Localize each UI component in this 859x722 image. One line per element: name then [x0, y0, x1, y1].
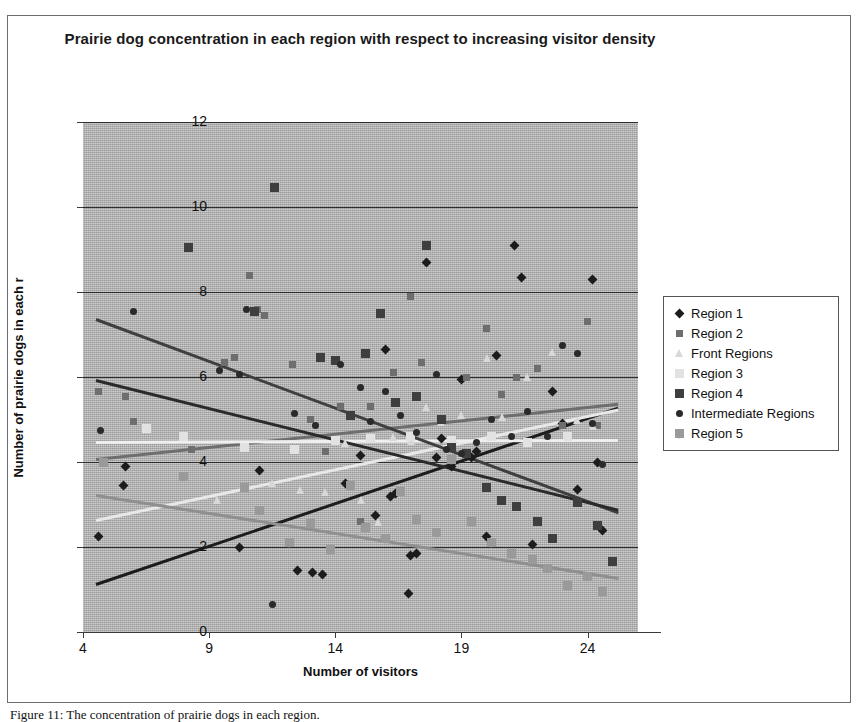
square-marker-icon — [671, 325, 687, 341]
figure-caption: Figure 11: The concentration of prairie … — [10, 707, 710, 722]
x-tick-mark-14 — [335, 632, 336, 638]
y-tick-label-6: 6 — [167, 368, 207, 384]
triangle-marker-icon — [671, 345, 687, 361]
y-axis-title: Number of prairie dogs in each r — [11, 98, 26, 658]
x-tick-mark-4 — [83, 632, 84, 638]
legend-item-region-3[interactable]: Region 3 — [671, 363, 831, 383]
legend-label: Region 3 — [691, 366, 743, 381]
y-tick-label-8: 8 — [167, 283, 207, 299]
legend-label: Region 2 — [691, 326, 743, 341]
legend-label: Region 5 — [691, 426, 743, 441]
legend-label: Region 1 — [691, 306, 743, 321]
legend-item-region-4[interactable]: Region 4 — [671, 383, 831, 403]
diamond-marker-icon — [671, 305, 687, 321]
figure-page: Prairie dog concentration in each region… — [0, 0, 859, 722]
y-tick-mark-10 — [77, 207, 83, 208]
legend: Region 1Region 2Front RegionsRegion 3Reg… — [663, 296, 839, 451]
x-marker-icon — [671, 365, 687, 381]
y-tick-mark-4 — [77, 462, 83, 463]
y-tick-mark-2 — [77, 547, 83, 548]
y-tick-label-10: 10 — [167, 198, 207, 214]
legend-label: Front Regions — [691, 346, 773, 361]
y-tick-mark-8 — [77, 292, 83, 293]
trendline-region-5 — [95, 494, 618, 580]
x-tick-label-19: 19 — [431, 640, 491, 656]
legend-item-front-regions[interactable]: Front Regions — [671, 343, 831, 363]
legend-label: Intermediate Regions — [691, 406, 815, 421]
x-axis-title: Number of visitors — [83, 664, 638, 679]
chart-title: Prairie dog concentration in each region… — [60, 28, 660, 50]
legend-item-region-5[interactable]: Region 5 — [671, 423, 831, 443]
trendline-intermediate-regions — [95, 379, 618, 512]
x-tick-label-14: 14 — [305, 640, 365, 656]
plus-marker-icon — [671, 425, 687, 441]
legend-item-region-2[interactable]: Region 2 — [671, 323, 831, 343]
legend-item-intermediate-regions[interactable]: Intermediate Regions — [671, 403, 831, 423]
x-tick-mark-24 — [588, 632, 589, 638]
legend-label: Region 4 — [691, 386, 743, 401]
trendline-region-4 — [95, 318, 618, 514]
y-tick-label-12: 12 — [167, 113, 207, 129]
x-tick-label-24: 24 — [558, 640, 618, 656]
trendline-region-2 — [95, 403, 618, 461]
legend-item-region-1[interactable]: Region 1 — [671, 303, 831, 323]
y-tick-label-2: 2 — [167, 538, 207, 554]
x-marker-icon — [671, 385, 687, 401]
x-tick-mark-19 — [461, 632, 462, 638]
y-tick-mark-6 — [77, 377, 83, 378]
x-tick-label-4: 4 — [53, 640, 113, 656]
y-tick-label-4: 4 — [167, 453, 207, 469]
x-tick-label-9: 9 — [179, 640, 239, 656]
circle-marker-icon — [671, 405, 687, 421]
x-tick-mark-9 — [209, 632, 210, 638]
y-tick-label-0: 0 — [167, 623, 207, 639]
y-tick-mark-12 — [77, 122, 83, 123]
